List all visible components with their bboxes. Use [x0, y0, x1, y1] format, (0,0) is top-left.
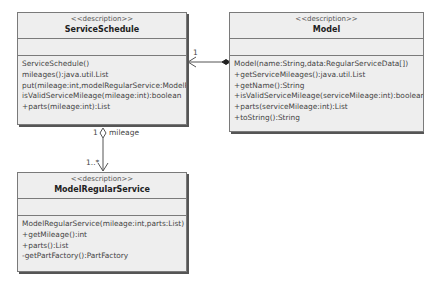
class-name: ServiceSchedule — [18, 24, 186, 35]
class-header: <<description>> Model — [230, 13, 423, 39]
operation: ServiceSchedule() — [22, 59, 182, 70]
attributes-compartment — [18, 39, 186, 56]
operation: +getMileage():int — [22, 230, 182, 241]
attributes-compartment — [18, 199, 186, 216]
operations-compartment: Model(name:String,data:RegularServiceDat… — [230, 56, 423, 127]
operation: Model(name:String,data:RegularServiceDat… — [234, 59, 419, 70]
stereotype: <<description>> — [230, 15, 423, 24]
multiplicity-model-schedule: 1 — [193, 48, 198, 57]
class-name: Model — [230, 24, 423, 35]
operation: +isValidServiceMileage(serviceMileage:in… — [234, 91, 419, 102]
operation: mileages():java.util.List — [22, 70, 182, 81]
operations-compartment: ModelRegularService(mileage:int,parts:Li… — [18, 216, 186, 265]
class-name: ModelRegularService — [18, 184, 186, 195]
operation: ModelRegularService(mileage:int,parts:Li… — [22, 219, 182, 230]
operation: +parts(mileage:int):List — [22, 102, 182, 113]
attributes-compartment — [230, 39, 423, 56]
operation: +getName():String — [234, 81, 419, 92]
stereotype: <<description>> — [18, 15, 186, 24]
operation: +getServiceMileages():java.util.List — [234, 70, 419, 81]
multiplicity-regular-target: 1..* — [86, 158, 99, 167]
stereotype: <<description>> — [18, 175, 186, 184]
operation: put(mileage:int,modelRegularService:Mode… — [22, 81, 182, 92]
operation: -getPartFactory():PartFactory — [22, 251, 182, 262]
class-header: <<description>> ServiceSchedule — [18, 13, 186, 39]
multiplicity-schedule-source: 1 — [93, 128, 98, 137]
operation: +toString():String — [234, 113, 419, 124]
operation: isValidServiceMileage(mileage:int):boole… — [22, 91, 182, 102]
operations-compartment: ServiceSchedule() mileages():java.util.L… — [18, 56, 186, 116]
role-mileage: mileage — [109, 128, 139, 137]
operation: +parts(serviceMileage:int):List — [234, 102, 419, 113]
class-model-regular-service[interactable]: <<description>> ModelRegularService Mode… — [17, 172, 187, 272]
class-service-schedule[interactable]: <<description>> ServiceSchedule ServiceS… — [17, 12, 187, 125]
class-header: <<description>> ModelRegularService — [18, 173, 186, 199]
class-model[interactable]: <<description>> Model Model(name:String,… — [229, 12, 424, 132]
operation: +parts():List — [22, 241, 182, 252]
